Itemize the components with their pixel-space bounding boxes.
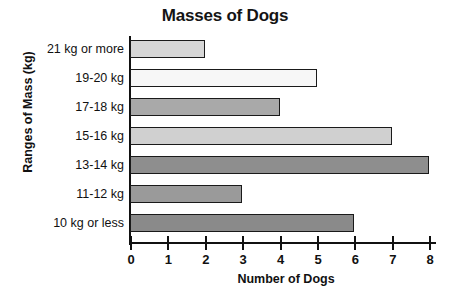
chart-title: Masses of Dogs [0,6,450,26]
x-axis-tick-label: 8 [417,252,443,267]
x-axis-tick-label: 2 [193,252,219,267]
plot-area: 21 kg or more19-20 kg17-18 kg15-16 kg13-… [130,36,442,243]
bar [130,185,242,203]
bar-row: 10 kg or less [130,214,442,232]
x-axis-tick-label: 0 [118,252,144,267]
x-axis-tick [242,236,244,250]
category-label: 21 kg or more [47,42,124,56]
bar-row: 11-12 kg [130,185,442,203]
x-axis-title: Number of Dogs [130,272,442,286]
x-axis-tick [317,236,319,250]
x-axis-tick-label: 4 [268,252,294,267]
category-label: 13-14 kg [75,158,124,172]
x-axis-tick-label: 1 [155,252,181,267]
x-axis-tick [429,236,431,250]
x-axis-tick [130,236,132,250]
bar-row: 21 kg or more [130,40,442,58]
category-label: 11-12 kg [76,187,124,201]
x-axis-tick-label: 7 [380,252,406,267]
bar [130,98,280,116]
category-label: 19-20 kg [75,71,124,85]
bar [130,156,429,174]
x-axis-tick [205,236,207,250]
category-label: 15-16 kg [75,129,124,143]
x-axis-tick [392,236,394,250]
bar [130,40,205,58]
x-axis-tick-label: 3 [230,252,256,267]
x-axis-tick [354,236,356,250]
bar [130,127,392,145]
bar-row: 15-16 kg [130,127,442,145]
y-axis-title: Ranges of Mass (kg) [21,32,35,192]
bar-row: 17-18 kg [130,98,442,116]
x-axis-tick-label: 6 [342,252,368,267]
category-label: 17-18 kg [75,100,124,114]
bar-chart-figure: Masses of Dogs 21 kg or more19-20 kg17-1… [0,0,450,301]
category-label: 10 kg or less [53,216,124,230]
bar-row: 19-20 kg [130,69,442,87]
bar [130,214,354,232]
bar-row: 13-14 kg [130,156,442,174]
x-axis-tick-label: 5 [305,252,331,267]
bar [130,69,317,87]
x-axis-tick [280,236,282,250]
x-axis-tick [167,236,169,250]
